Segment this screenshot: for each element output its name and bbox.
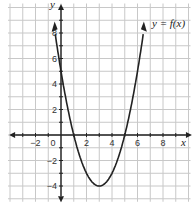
svg-text:−4: −4 <box>47 181 57 191</box>
svg-text:0: 0 <box>50 138 55 148</box>
svg-text:−2: −2 <box>30 138 40 148</box>
svg-text:6: 6 <box>52 54 57 64</box>
svg-text:4: 4 <box>109 138 114 148</box>
x-axis-label: x <box>180 136 186 148</box>
svg-text:6: 6 <box>135 138 140 148</box>
svg-text:2: 2 <box>52 105 57 115</box>
axes <box>9 4 192 202</box>
grid-lines <box>8 4 191 202</box>
svg-text:8: 8 <box>160 138 165 148</box>
function-label: y = f(x) <box>151 17 185 30</box>
quadratic-graph: −2024688642−2−4 y = f(x) x y <box>0 0 194 215</box>
svg-text:2: 2 <box>84 138 89 148</box>
svg-text:4: 4 <box>52 79 57 89</box>
svg-text:−2: −2 <box>47 156 57 166</box>
y-axis-label: y <box>49 0 55 10</box>
